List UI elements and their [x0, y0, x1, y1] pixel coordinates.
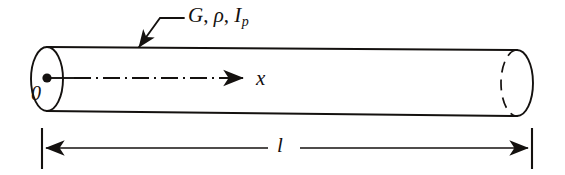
material-properties-label: G, ρ, Ip [188, 5, 249, 29]
density-symbol: ρ [214, 3, 224, 27]
polar-moment-subscript: p [242, 14, 249, 29]
cylinder-bottom-edge [47, 111, 517, 116]
axis-label: x [256, 68, 265, 89]
cylinder-top-edge [47, 47, 517, 50]
right-end-cap-hidden-arc [501, 50, 517, 116]
polar-moment-symbol: I [234, 3, 241, 27]
right-end-cap-front-arc [517, 50, 533, 116]
shear-modulus-symbol: G [188, 3, 203, 27]
properties-leader-line [139, 18, 184, 47]
length-label: l [277, 135, 283, 156]
origin-label: 0 [31, 83, 41, 103]
properties-separator-1: , [203, 3, 214, 27]
properties-separator-2: , [224, 3, 235, 27]
figure-root: G, ρ, Ip 0 x l [0, 0, 565, 175]
